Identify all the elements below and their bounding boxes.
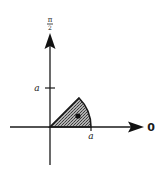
pi-over-2-label: π 2 <box>47 16 53 31</box>
shaded-sector <box>50 98 91 127</box>
zero-angle-label: 0 <box>147 121 155 134</box>
pi-denominator: 2 <box>48 24 52 31</box>
centroid-dot <box>75 113 80 118</box>
polar-diagram: a a 0 π 2 <box>0 0 161 172</box>
vertical-tick-label: a <box>34 83 39 93</box>
pi-numerator: π <box>48 16 53 24</box>
horizontal-tick-label: a <box>88 131 93 141</box>
